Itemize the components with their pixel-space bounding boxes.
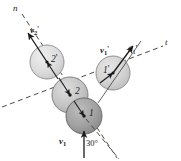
n-axis-label: n <box>13 4 18 13</box>
theta-prime: ' <box>136 43 138 53</box>
ball-2-prime-label: 2' <box>51 54 57 65</box>
ball-1-prime-prime: ' <box>108 64 110 74</box>
physics-diagram-oblique-impact: n t v2' v1' v1 θ1' 30° 2' 2 1 1' <box>0 0 181 161</box>
ball-1-number: 1 <box>89 108 94 118</box>
v1-prime-label: v1' <box>100 45 109 57</box>
v1-prime-prime: ' <box>107 44 109 54</box>
v1-label: v1 <box>59 137 66 148</box>
ball-1-label: 1 <box>89 109 94 119</box>
theta-1-prime-label: θ1' <box>128 44 137 56</box>
ball-2-prime-prime: ' <box>56 53 58 63</box>
ball-1-prime-label: 1' <box>103 65 109 76</box>
ball-2-number: 2 <box>75 86 80 96</box>
v1-subscript: 1 <box>63 140 66 147</box>
ball-2-label: 2 <box>75 87 80 97</box>
diagram-canvas <box>0 0 181 161</box>
v2-prime-label: v2' <box>30 25 39 37</box>
angle-30-label: 30° <box>86 139 98 148</box>
v2-prime-prime: ' <box>37 24 39 34</box>
t-axis-label: t <box>165 38 168 47</box>
